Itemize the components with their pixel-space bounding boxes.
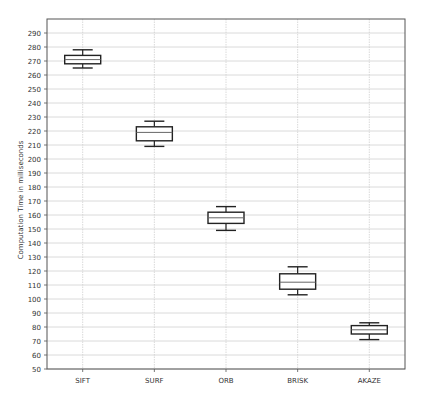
y-tick-label: 220 — [28, 128, 41, 136]
y-tick-label: 90 — [32, 310, 41, 318]
y-tick-label: 190 — [28, 170, 41, 178]
y-axis-label: Computation Time in milliseconds — [17, 140, 25, 259]
box-surf — [136, 121, 172, 146]
y-tick-label: 240 — [28, 100, 41, 108]
y-tick-label: 110 — [28, 282, 41, 290]
y-tick-label: 200 — [28, 156, 41, 164]
y-tick-label: 270 — [28, 58, 41, 66]
y-tick-label: 160 — [28, 212, 41, 220]
y-tick-label: 290 — [28, 30, 41, 38]
box-plot-chart: 5060708090100110120130140150160170180190… — [0, 0, 424, 399]
grid-lines — [47, 19, 405, 369]
iqr-box — [280, 274, 316, 289]
y-tick-label: 250 — [28, 86, 41, 94]
y-tick-label: 120 — [28, 268, 41, 276]
x-tick-label: AKAZE — [358, 377, 381, 385]
y-tick-label: 70 — [32, 338, 41, 346]
iqr-box — [136, 127, 172, 141]
y-tick-label: 60 — [32, 352, 41, 360]
x-axis-ticks: SIFTSURFORBBRISKAKAZE — [75, 369, 381, 385]
x-tick-label: ORB — [218, 377, 233, 385]
box-sift — [65, 50, 101, 68]
y-tick-label: 150 — [28, 226, 41, 234]
x-tick-label: BRISK — [287, 377, 308, 385]
y-tick-label: 230 — [28, 114, 41, 122]
y-tick-label: 140 — [28, 240, 41, 248]
x-tick-label: SURF — [145, 377, 163, 385]
y-tick-label: 280 — [28, 44, 41, 52]
y-axis-ticks: 5060708090100110120130140150160170180190… — [28, 30, 47, 374]
x-tick-label: SIFT — [75, 377, 90, 385]
box-orb — [208, 207, 244, 231]
y-tick-label: 170 — [28, 198, 41, 206]
y-tick-label: 130 — [28, 254, 41, 262]
y-tick-label: 50 — [32, 366, 41, 374]
y-tick-label: 100 — [28, 296, 41, 304]
y-tick-label: 260 — [28, 72, 41, 80]
y-tick-label: 180 — [28, 184, 41, 192]
box-akaze — [351, 323, 387, 340]
y-tick-label: 210 — [28, 142, 41, 150]
y-tick-label: 80 — [32, 324, 41, 332]
